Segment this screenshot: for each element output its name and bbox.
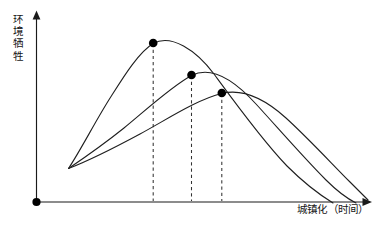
peak-marker-2	[187, 71, 196, 80]
peak-marker-1	[149, 39, 158, 48]
curve-2-path	[69, 72, 357, 203]
curve-1-path	[69, 41, 334, 203]
axis-group	[32, 11, 372, 207]
dropline-group	[153, 44, 222, 202]
y-axis-arrow-icon	[33, 11, 41, 20]
y-axis-label: 环境牺牲	[8, 14, 22, 63]
origin-dot	[32, 198, 40, 206]
peak-marker-3	[218, 89, 227, 98]
figure-root: 环境牺牲 城镇化（时间）	[0, 0, 390, 232]
chart-canvas	[0, 0, 390, 232]
x-axis-label: 城镇化（时间）	[297, 204, 368, 215]
peak-marker-group	[149, 39, 226, 98]
curve-group	[69, 41, 369, 203]
curve-3-path	[69, 92, 369, 200]
